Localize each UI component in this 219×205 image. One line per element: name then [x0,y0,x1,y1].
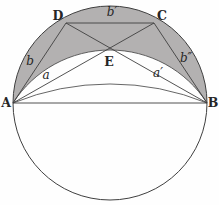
label-E: E [104,54,114,69]
label-C: C [157,8,167,23]
label-D: D [53,8,64,23]
label-A: A [0,95,11,110]
label-B: B [208,95,219,110]
figure-container: ABCDEaa′bb′b″ [0,0,219,205]
label-a: a [42,68,49,82]
label-b-prime: b′ [107,5,118,19]
segment-A-D [13,23,66,103]
label-b-double-prime: b″ [180,51,193,65]
label-b: b [26,54,34,68]
label-a-prime: a′ [153,66,163,80]
geometry-diagram: ABCDEaa′bb′b″ [0,0,219,205]
